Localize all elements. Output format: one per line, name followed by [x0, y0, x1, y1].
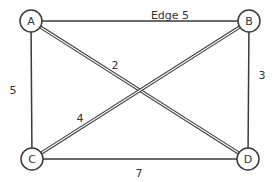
node-label-c: C [28, 153, 36, 166]
edge-label-c-d: 7 [136, 167, 143, 180]
edges-layer [31, 21, 249, 159]
edge-label-a-b: Edge 5 [151, 9, 189, 22]
edge-a-c [31, 32, 32, 148]
node-a: A [20, 10, 42, 32]
edge-label-b-d: 3 [259, 69, 266, 82]
edge-b-d [248, 32, 249, 148]
edge-label-a-d: 2 [112, 59, 119, 72]
node-label-b: B [245, 15, 253, 28]
node-b: B [238, 10, 260, 32]
node-label-d: D [244, 153, 252, 166]
edge-label-b-c: 4 [77, 112, 84, 125]
node-c: C [21, 148, 43, 170]
edge-label-a-c: 5 [10, 84, 17, 97]
graph-diagram: ABCD Edge 553724 [0, 0, 278, 182]
node-d: D [237, 148, 259, 170]
node-label-a: A [27, 15, 35, 28]
